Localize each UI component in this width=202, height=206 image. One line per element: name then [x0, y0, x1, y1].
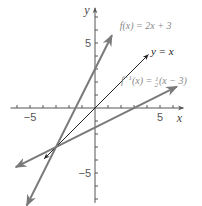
- chart: −555−5xy f(x) = 2x + 3y = xf−1(x) = 12(x…: [0, 0, 202, 206]
- axes: −555−5xy: [11, 3, 184, 203]
- y-axis-label: y: [83, 3, 90, 17]
- y-tick-label: −5: [78, 167, 91, 179]
- labels-group: f(x) = 2x + 3y = xf−1(x) = 12(x − 3): [120, 20, 188, 89]
- label-f: f(x) = 2x + 3: [120, 20, 172, 32]
- label-f-inverse-mid: (x) =: [132, 75, 155, 87]
- x-tick-label: −5: [24, 111, 37, 123]
- label-f-inverse: f−1(x) = 12(x − 3): [121, 74, 187, 89]
- series-line-2: [16, 87, 177, 168]
- x-tick-label: 5: [157, 111, 163, 123]
- series-group: [16, 35, 177, 205]
- label-f-inverse-sup: −1: [124, 74, 132, 82]
- series-line-0: [27, 35, 112, 205]
- y-tick-label: 5: [85, 37, 91, 49]
- label-f-inverse-tail: (x − 3): [159, 75, 188, 87]
- series-line-1: [44, 55, 148, 159]
- label-identity: y = x: [150, 45, 174, 57]
- label-f-inverse-frac-den: 2: [154, 81, 158, 89]
- x-axis-label: x: [176, 111, 183, 125]
